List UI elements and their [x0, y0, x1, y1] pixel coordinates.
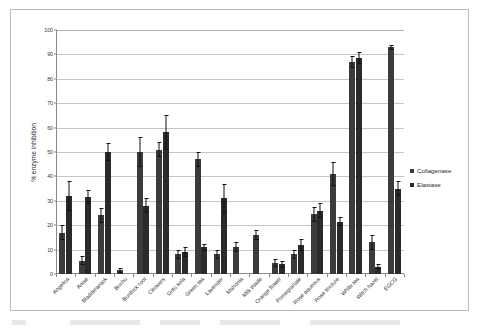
- error-bar: [320, 203, 321, 218]
- bar[interactable]: [214, 254, 220, 274]
- bar[interactable]: [98, 215, 104, 274]
- error-bar: [352, 56, 353, 68]
- bar[interactable]: [79, 261, 85, 274]
- bar[interactable]: [298, 245, 304, 274]
- bar-slot: [195, 30, 201, 274]
- bar[interactable]: [175, 254, 181, 274]
- bar-slot: [356, 30, 362, 274]
- bar[interactable]: [66, 196, 72, 274]
- x-axis-label: Buchu: [113, 276, 128, 291]
- bar-group: [269, 30, 288, 274]
- error-bar: [223, 184, 224, 213]
- error-bar: [197, 152, 198, 167]
- error-bar: [313, 207, 314, 222]
- error-bar: [378, 264, 379, 269]
- bar-group: [365, 30, 384, 274]
- error-bar: [300, 239, 301, 251]
- bar[interactable]: [85, 197, 91, 274]
- bar-group: [153, 30, 172, 274]
- bar-slot: [163, 30, 169, 274]
- error-bar: [184, 247, 185, 257]
- bar[interactable]: [253, 235, 259, 274]
- bar[interactable]: [182, 252, 188, 274]
- y-tick-label: 30: [47, 198, 53, 204]
- bar[interactable]: [291, 254, 297, 274]
- legend-swatch-icon: [410, 169, 414, 173]
- bar[interactable]: [156, 150, 162, 274]
- legend-swatch-icon: [410, 183, 414, 187]
- bar-slot: [214, 30, 220, 274]
- bar[interactable]: [105, 152, 111, 274]
- bar-slot: [395, 30, 401, 274]
- bar-slot: [66, 30, 72, 274]
- error-bar: [294, 250, 295, 260]
- legend-item[interactable]: Elastase: [410, 181, 451, 188]
- bar-group: [230, 30, 249, 274]
- y-tick-label: 40: [47, 173, 53, 179]
- x-axis-label: EGCG: [383, 276, 399, 292]
- bar[interactable]: [137, 152, 143, 274]
- bar[interactable]: [279, 264, 285, 274]
- figure-container: % enzyme inhibition 01020304050607080901…: [0, 0, 480, 336]
- bar-slot: [79, 30, 85, 274]
- artifact-block: [310, 320, 400, 325]
- bar[interactable]: [59, 233, 65, 274]
- legend: CollagenaseElastase: [410, 167, 451, 195]
- bar-group: [327, 30, 346, 274]
- bar[interactable]: [388, 47, 394, 274]
- bar-slot: [117, 30, 123, 274]
- bar[interactable]: [163, 132, 169, 274]
- y-axis-title-text: % enzyme inhibition: [30, 123, 37, 182]
- error-bar: [62, 225, 63, 240]
- legend-item[interactable]: Collagenase: [410, 167, 451, 174]
- bar[interactable]: [375, 267, 381, 274]
- bar[interactable]: [221, 198, 227, 274]
- error-bar: [216, 250, 217, 260]
- bar-group: [191, 30, 210, 274]
- bar[interactable]: [201, 247, 207, 274]
- x-axis-label: Cleavers: [147, 276, 167, 296]
- bar-slot: [259, 30, 265, 274]
- bar[interactable]: [330, 174, 336, 274]
- error-bar: [88, 190, 89, 205]
- bar-slot: [143, 30, 149, 274]
- bar-slot: [317, 30, 323, 274]
- bar-slot: [369, 30, 375, 274]
- bar[interactable]: [195, 159, 201, 274]
- bar[interactable]: [272, 263, 278, 274]
- bar[interactable]: [233, 247, 239, 274]
- bar-slot: [279, 30, 285, 274]
- bar[interactable]: [395, 189, 401, 274]
- y-tick-label: 10: [47, 247, 53, 253]
- error-bar: [68, 181, 69, 210]
- error-bar: [146, 198, 147, 213]
- bar[interactable]: [349, 62, 355, 274]
- error-bar: [332, 162, 333, 186]
- bar[interactable]: [317, 211, 323, 274]
- bar-slot: [291, 30, 297, 274]
- bar-slot: [311, 30, 317, 274]
- bar[interactable]: [337, 222, 343, 274]
- error-bar: [81, 256, 82, 266]
- bar[interactable]: [311, 214, 317, 274]
- y-tick-label: 50: [47, 149, 53, 155]
- chart-frame: % enzyme inhibition 01020304050607080901…: [10, 9, 469, 311]
- bar-slot: [59, 30, 65, 274]
- bar[interactable]: [356, 58, 362, 274]
- bar-slot: [349, 30, 355, 274]
- x-axis-label: Lavender: [204, 276, 224, 296]
- bar-slot: [253, 30, 259, 274]
- error-bar: [178, 250, 179, 260]
- artifact-block: [70, 320, 140, 325]
- bar-slot: [233, 30, 239, 274]
- bar-group: [288, 30, 307, 274]
- bar[interactable]: [369, 242, 375, 274]
- x-axis-label: Green tea: [184, 276, 206, 298]
- y-tick-label: 70: [47, 100, 53, 106]
- bar-slot: [182, 30, 188, 274]
- bar-slot: [156, 30, 162, 274]
- error-bar: [274, 259, 275, 266]
- legend-label: Elastase: [417, 181, 441, 188]
- bar[interactable]: [143, 206, 149, 274]
- bar-slot: [85, 30, 91, 274]
